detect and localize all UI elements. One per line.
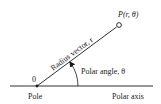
- polar-angle-label: Polar angle, θ: [81, 67, 125, 76]
- polar-coordinates-diagram: 0 Pole Polar axis Polar angle, θ P(r, θ)…: [0, 0, 161, 104]
- pole-dot: [36, 85, 39, 88]
- pole-label: Pole: [28, 92, 43, 101]
- polar-axis-label: Polar axis: [112, 92, 144, 101]
- point-p-label: P(r, θ): [117, 10, 139, 19]
- origin-label: 0: [32, 75, 36, 84]
- polar-angle-arc: [71, 64, 78, 87]
- point-p-marker: [117, 23, 122, 28]
